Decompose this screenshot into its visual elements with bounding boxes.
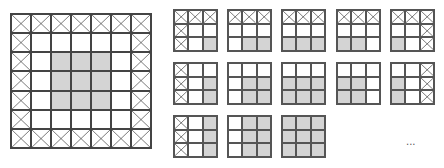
gray-cell <box>311 143 325 157</box>
white-cell <box>188 116 202 130</box>
white-cell <box>228 77 242 91</box>
white-cell <box>31 71 51 90</box>
white-cell <box>391 24 405 38</box>
crossed-cell <box>131 129 151 148</box>
cross-icon <box>132 130 150 147</box>
crossed-cell <box>51 129 71 148</box>
white-cell <box>188 90 202 104</box>
crossed-cell <box>337 10 351 24</box>
cross-icon <box>52 15 70 32</box>
white-cell <box>203 63 217 77</box>
gray-cell <box>257 90 271 104</box>
white-cell <box>228 143 242 157</box>
cross-icon <box>12 130 30 147</box>
crossed-cell <box>174 37 188 51</box>
crossed-cell <box>111 129 131 148</box>
white-cell <box>188 37 202 51</box>
gray-cell <box>257 77 271 91</box>
cross-icon <box>12 53 30 70</box>
gray-cell <box>351 77 365 91</box>
cross-icon <box>312 11 324 23</box>
white-cell <box>405 24 419 38</box>
cross-icon <box>112 130 130 147</box>
cross-icon <box>204 11 216 23</box>
crossed-cell <box>420 77 434 91</box>
crossed-cell <box>174 90 188 104</box>
crossed-cell <box>111 14 131 33</box>
white-cell <box>188 24 202 38</box>
gray-cell <box>391 77 405 91</box>
crossed-cell <box>51 14 71 33</box>
crossed-cell <box>242 10 256 24</box>
gray-cell <box>351 90 365 104</box>
crossed-cell <box>131 33 151 52</box>
white-cell <box>111 33 131 52</box>
crossed-cell <box>11 14 31 33</box>
cross-icon <box>132 15 150 32</box>
cross-icon <box>421 11 433 23</box>
crossed-cell <box>11 71 31 90</box>
white-cell <box>242 63 256 77</box>
cross-icon <box>283 11 295 23</box>
crossed-cell <box>11 33 31 52</box>
crossed-cell <box>391 10 405 24</box>
white-cell <box>228 116 242 130</box>
cross-icon <box>297 11 309 23</box>
crossed-cell <box>11 110 31 129</box>
crossed-cell <box>91 129 111 148</box>
gray-cell <box>282 90 296 104</box>
cross-icon <box>421 38 433 50</box>
small-grid-3x3 <box>281 62 326 105</box>
crossed-cell <box>420 63 434 77</box>
crossed-cell <box>420 37 434 51</box>
gray-cell <box>311 77 325 91</box>
white-cell <box>405 63 419 77</box>
cross-icon <box>32 15 50 32</box>
white-cell <box>391 63 405 77</box>
white-cell <box>351 63 365 77</box>
gray-cell <box>51 91 71 110</box>
large-grid-7x7 <box>10 13 152 149</box>
gray-cell <box>203 37 217 51</box>
gray-cell <box>203 143 217 157</box>
gray-cell <box>242 37 256 51</box>
small-grid-3x3 <box>336 9 381 52</box>
crossed-cell <box>296 10 310 24</box>
gray-cell <box>257 37 271 51</box>
white-cell <box>111 52 131 71</box>
white-cell <box>296 24 310 38</box>
crossed-cell <box>188 10 202 24</box>
white-cell <box>51 110 71 129</box>
small-grid-3x3 <box>281 9 326 52</box>
gray-cell <box>296 143 310 157</box>
cross-icon <box>12 15 30 32</box>
white-cell <box>405 37 419 51</box>
gray-cell <box>311 130 325 144</box>
gray-cell <box>296 130 310 144</box>
cross-icon <box>72 15 90 32</box>
white-cell <box>228 37 242 51</box>
gray-cell <box>351 37 365 51</box>
crossed-cell <box>174 77 188 91</box>
cross-icon <box>367 11 379 23</box>
cross-icon <box>12 111 30 128</box>
gray-cell <box>282 77 296 91</box>
crossed-cell <box>420 24 434 38</box>
white-cell <box>366 77 380 91</box>
crossed-cell <box>91 14 111 33</box>
cross-icon <box>175 64 187 76</box>
white-cell <box>337 63 351 77</box>
cross-icon <box>392 11 404 23</box>
crossed-cell <box>11 129 31 148</box>
white-cell <box>228 24 242 38</box>
white-cell <box>311 63 325 77</box>
crossed-cell <box>228 10 242 24</box>
white-cell <box>111 91 131 110</box>
white-cell <box>366 24 380 38</box>
crossed-cell <box>131 52 151 71</box>
small-grid-3x3 <box>173 62 218 105</box>
crossed-cell <box>420 90 434 104</box>
gray-cell <box>296 90 310 104</box>
gray-cell <box>257 116 271 130</box>
white-cell <box>71 33 91 52</box>
